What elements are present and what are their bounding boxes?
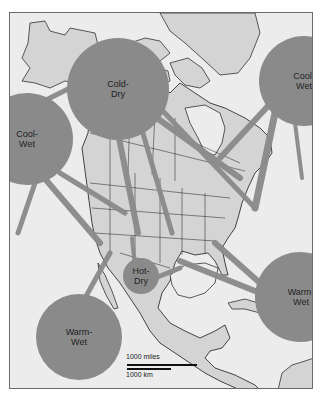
air-mass-label-warm-wet-atlantic: Warm- Wet — [288, 287, 313, 307]
air-mass-label-cool-wet-atlantic: Cool- Wet — [293, 71, 313, 91]
air-mass-label-cold-dry: Cold- Dry — [107, 79, 129, 99]
air-mass-label-cool-wet-pacific: Cool- Wet — [16, 129, 38, 149]
north-america-map — [10, 13, 313, 389]
air-mass-label-warm-wet-pacific: Warm- Wet — [66, 327, 93, 347]
map-frame: Cold- Dry Cool- Wet Cool- Wet Hot- Dry W… — [9, 12, 313, 389]
south-america — [278, 358, 313, 389]
air-mass-label-hot-dry: Hot- Dry — [132, 266, 149, 286]
scale-bar-km — [127, 368, 171, 370]
scale-label-km: 1000 km — [126, 371, 153, 378]
baffin-island — [170, 58, 210, 88]
scale-bar-miles — [127, 364, 197, 366]
scale-label-miles: 1000 miles — [126, 353, 160, 360]
